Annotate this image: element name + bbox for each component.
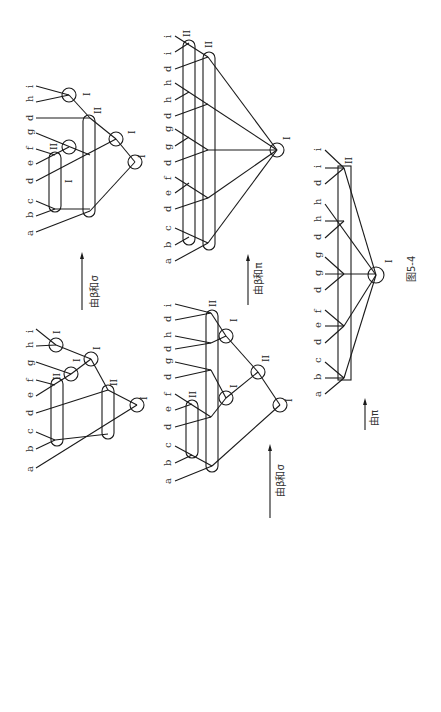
svg-text:e: e [162,406,173,412]
svg-text:II: II [204,40,214,48]
tree-b: a b c d e f g h i I I I II [24,329,149,472]
svg-text:d: d [312,179,323,186]
svg-text:b: b [162,242,173,248]
arrow-2: 由β和π [246,254,264,305]
svg-text:h: h [162,79,173,86]
svg-text:II: II [188,390,198,398]
svg-text:d: d [312,286,323,293]
svg-text:i: i [162,35,173,38]
svg-text:由π: 由π [368,410,380,426]
tree-d-leaf-labels: a b c d e f d g d h d i [162,304,173,484]
arrow-4: 由π [363,398,380,430]
svg-text:e: e [162,190,173,196]
svg-text:a: a [162,258,173,264]
tree-d: a b c d e f d g d h d i [162,299,294,484]
svg-text:由β和π: 由β和π [252,263,264,295]
tree-e-leaf-labels: a b c d e f d g g d h h d i i [312,148,323,397]
svg-text:h: h [24,341,35,348]
svg-text:a: a [24,230,35,236]
svg-text:I: I [127,130,137,134]
svg-text:b: b [24,212,35,218]
svg-text:II: II [52,372,62,380]
svg-text:I: I [139,396,149,400]
tree-a: a b c d e f g d h i [24,85,147,236]
svg-text:g: g [162,125,173,132]
tree-e: a b c d e f d g g d h h d i i [312,148,394,397]
svg-text:II: II [182,29,192,37]
svg-text:II: II [109,378,119,386]
svg-text:d: d [24,114,35,121]
tree-c: a b c d e f d g g d h h d i i [162,29,292,264]
svg-text:II: II [344,156,354,164]
svg-text:c: c [312,357,323,363]
svg-text:II: II [93,106,103,114]
svg-text:d: d [162,373,173,380]
svg-text:I: I [52,330,62,334]
svg-text:i: i [312,165,323,168]
svg-text:f: f [162,391,173,396]
svg-text:a: a [24,466,35,472]
svg-text:g: g [24,128,35,135]
svg-text:b: b [162,460,173,466]
figure-caption: 图5-4 [406,256,417,282]
svg-text:d: d [24,177,35,184]
svg-text:i: i [162,304,173,307]
svg-text:a: a [312,391,323,397]
svg-text:e: e [24,160,35,166]
svg-text:I: I [72,358,82,362]
svg-text:i: i [24,330,35,333]
tree-a-oval-ii-2 [83,115,95,217]
svg-text:f: f [162,175,173,180]
svg-text:d: d [24,409,35,416]
svg-text:h: h [162,331,173,338]
svg-text:h: h [312,215,323,222]
svg-text:d: d [162,112,173,119]
svg-text:I: I [229,318,239,322]
svg-text:I: I [64,179,74,183]
svg-text:e: e [312,322,323,328]
svg-text:h: h [162,96,173,103]
svg-text:由β和σ: 由β和σ [88,275,100,308]
svg-text:I: I [284,398,294,402]
svg-text:h: h [312,198,323,205]
svg-text:d: d [312,338,323,345]
svg-text:g: g [24,359,35,366]
svg-text:i: i [24,85,35,88]
svg-text:I: I [137,154,147,158]
svg-text:c: c [24,428,35,434]
svg-text:I: I [282,136,292,140]
tree-a-oval-ii-1 [49,152,61,212]
svg-text:i: i [162,52,173,55]
tree-c-leaf-labels: a b c d e f d g g d h h d i i [162,35,173,264]
tree-b-leaf-labels: a b c d e f g h i [24,330,35,472]
svg-text:d: d [162,345,173,352]
svg-text:I: I [82,92,92,96]
svg-text:c: c [162,442,173,448]
svg-text:g: g [312,269,323,276]
svg-text:d: d [162,423,173,430]
svg-text:II: II [261,354,271,362]
svg-text:d: d [162,205,173,212]
svg-text:e: e [24,392,35,398]
tree-b-oval-ii-2 [102,385,114,439]
svg-text:d: d [162,65,173,72]
svg-text:f: f [312,308,323,313]
svg-text:c: c [162,225,173,231]
figure-5-4: a b c d e f g d h i [0,0,441,712]
svg-text:d: d [162,315,173,322]
svg-text:a: a [162,478,173,484]
arrow-1: 由β和σ [80,252,100,310]
tree-a-leaf-labels: a b c d e f g d h i [24,85,35,236]
svg-text:g: g [312,251,323,258]
svg-text:II: II [208,299,218,307]
svg-text:g: g [162,143,173,150]
svg-text:由β和σ: 由β和σ [274,464,286,497]
svg-text:c: c [24,198,35,204]
svg-text:i: i [312,148,323,151]
svg-text:g: g [162,357,173,364]
tree-b-oval-ii-1 [51,378,63,446]
svg-text:b: b [24,446,35,452]
svg-text:h: h [24,95,35,102]
svg-text:II: II [49,142,59,150]
svg-text:I: I [92,346,102,350]
